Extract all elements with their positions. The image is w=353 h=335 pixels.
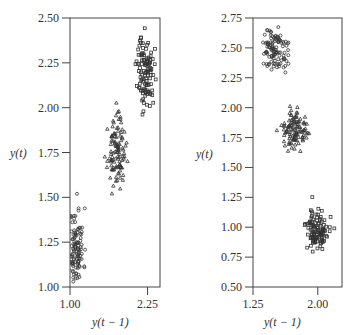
data-point [124, 144, 127, 147]
y-tick-label: 1.00 [38, 280, 59, 294]
y-tick-label: 2.25 [38, 56, 59, 70]
data-point [287, 62, 290, 65]
data-point [119, 121, 122, 124]
data-point [310, 244, 313, 247]
data-point [115, 101, 118, 104]
data-point [150, 51, 153, 54]
y-tick-label: 1.75 [221, 131, 242, 145]
right-x-axis-label: y(t − 1) [263, 315, 301, 329]
data-point [145, 47, 148, 50]
data-point [148, 105, 151, 108]
data-point [270, 68, 273, 71]
data-point [83, 207, 86, 210]
data-point [287, 54, 290, 57]
data-point [110, 192, 113, 195]
data-point [290, 146, 293, 149]
data-point [105, 166, 108, 169]
data-point [114, 175, 117, 178]
series-regime-3 [134, 27, 157, 116]
data-point [142, 110, 145, 113]
chart-canvas: 1.001.251.501.752.002.252.501.002.25 0.5… [0, 0, 353, 335]
data-point [277, 26, 280, 29]
data-point [109, 176, 112, 179]
data-point [333, 227, 336, 230]
y-tick-label: 2.50 [221, 41, 242, 55]
data-point [296, 105, 299, 108]
data-point [303, 115, 306, 118]
data-point [106, 127, 109, 130]
data-point [284, 71, 287, 74]
data-point [317, 207, 320, 210]
data-point [111, 125, 114, 128]
data-point [154, 78, 157, 81]
data-point [72, 280, 75, 283]
data-point [281, 45, 284, 48]
data-point [153, 63, 156, 66]
data-point [118, 134, 121, 137]
data-point [328, 230, 331, 233]
left-y-axis-label: y(t) [9, 146, 27, 160]
data-point [109, 143, 112, 146]
left-x-axis-label: y(t − 1) [91, 315, 129, 329]
data-point [142, 47, 145, 50]
data-point [289, 109, 292, 112]
plot-frame [253, 18, 342, 287]
data-point [288, 104, 291, 107]
y-tick-label: 2.50 [38, 11, 59, 25]
data-point [316, 216, 319, 219]
data-point [141, 113, 144, 116]
left-scatter-panel: 1.001.251.501.752.002.252.501.002.25 [38, 11, 160, 311]
data-point [316, 247, 319, 250]
data-point [277, 58, 280, 61]
x-tick-label: 2.00 [307, 297, 328, 311]
data-point [138, 44, 141, 47]
y-tick-label: 1.25 [38, 235, 59, 249]
data-point [326, 235, 329, 238]
data-point [293, 143, 296, 146]
data-point [299, 117, 302, 120]
data-point [145, 103, 148, 106]
data-point [66, 245, 69, 248]
y-tick-label: 0.75 [221, 250, 242, 264]
y-tick-label: 2.00 [221, 101, 242, 115]
data-point [293, 147, 296, 150]
x-tick-label: 1.00 [60, 297, 81, 311]
data-point [66, 259, 69, 262]
series-regime-1 [65, 192, 86, 283]
data-point [121, 173, 124, 176]
data-point [320, 209, 323, 212]
data-point [282, 140, 285, 143]
data-point [282, 128, 285, 131]
y-tick-label: 0.50 [221, 280, 242, 294]
right-y-axis-label: y(t) [195, 147, 213, 161]
data-point [76, 192, 79, 195]
data-point [311, 196, 314, 199]
data-point [306, 246, 309, 249]
y-tick-label: 1.00 [221, 220, 242, 234]
data-point [275, 129, 278, 132]
data-point [306, 233, 309, 236]
scatter-points [261, 26, 335, 253]
data-point [154, 47, 157, 50]
data-point [122, 151, 125, 154]
right-scatter-panel: 0.500.751.001.251.501.752.002.252.502.75… [221, 11, 342, 311]
data-point [328, 226, 331, 229]
data-point [143, 27, 146, 30]
data-point [151, 89, 154, 92]
data-point [287, 49, 290, 52]
data-point [139, 67, 142, 70]
data-point [112, 184, 115, 187]
series-regime-1 [261, 26, 289, 74]
data-point [311, 250, 314, 253]
data-point [263, 33, 266, 36]
data-point [121, 128, 124, 131]
data-point [286, 149, 289, 152]
data-point [119, 187, 122, 190]
data-point [84, 248, 87, 251]
series-regime-2 [103, 101, 129, 195]
data-point [103, 155, 106, 158]
y-tick-label: 2.75 [221, 11, 242, 25]
y-tick-label: 2.25 [221, 71, 242, 85]
y-tick-label: 1.25 [221, 190, 242, 204]
data-point [299, 149, 302, 152]
